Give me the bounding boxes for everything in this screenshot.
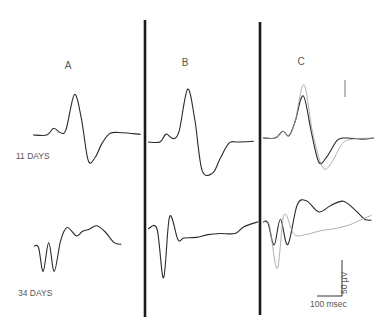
trace-b-34-days-dark <box>148 216 258 278</box>
traces-group <box>33 85 374 278</box>
trace-a-34-days-dark <box>34 226 121 272</box>
row-label-34-days: 34 DAYS <box>18 288 53 298</box>
scale-bar-time-label: 100 msec <box>310 299 348 309</box>
trace-b-11-days-dark <box>148 89 254 175</box>
panel-label-b: B <box>182 57 189 68</box>
panel-label-a: A <box>65 60 72 71</box>
figure: A B C 11 DAYS 34 DAYS 50 µV 100 msec <box>0 0 389 332</box>
row-label-11-days: 11 DAYS <box>16 151 50 161</box>
trace-c-11-days-dark <box>263 96 374 164</box>
panel-label-c: C <box>297 56 304 67</box>
scale-bar-voltage-label: 50 µV <box>339 271 349 294</box>
trace-c-11-days-light <box>263 85 374 170</box>
